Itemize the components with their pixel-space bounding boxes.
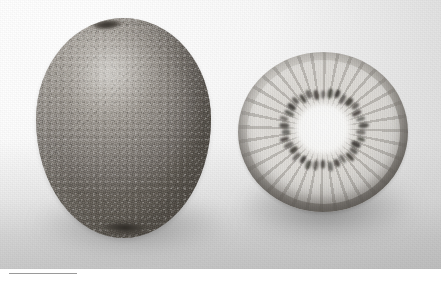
caption-rule — [9, 273, 77, 274]
film-grain-overlay — [0, 0, 441, 269]
kiwifruit-photograph — [0, 0, 441, 269]
page-root — [0, 0, 441, 284]
